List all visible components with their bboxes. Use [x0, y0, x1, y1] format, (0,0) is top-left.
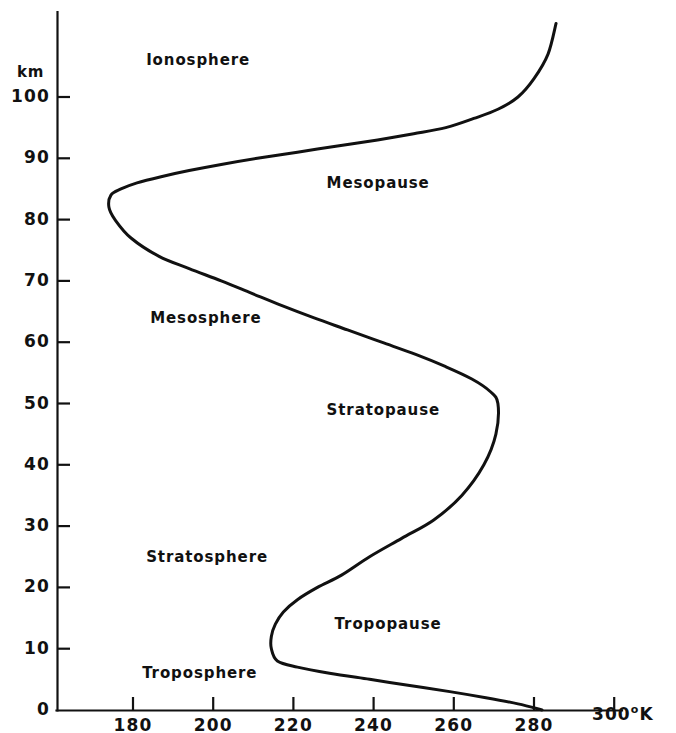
y-tick-label: 50 [0, 393, 50, 413]
y-tick-label: 10 [0, 638, 50, 658]
y-tick-label: 40 [0, 454, 50, 474]
y-tick-label: 80 [0, 209, 50, 229]
region-label-stratopause: Stratopause [327, 401, 441, 419]
x-tick-label: 200 [188, 715, 238, 733]
x-tick-label: 260 [429, 715, 479, 733]
temperature-profile-curve [109, 23, 556, 710]
region-label-troposphere: Troposphere [142, 664, 257, 682]
x-tick-label: 220 [268, 715, 318, 733]
x-tick-label: 280 [509, 715, 559, 733]
y-axis-unit-label: km [17, 63, 44, 81]
region-label-stratosphere: Stratosphere [146, 548, 268, 566]
y-tick-label: 30 [0, 515, 50, 535]
y-tick-label: 0 [0, 699, 50, 719]
x-tick-label: 180 [108, 715, 158, 733]
y-tick-label: 90 [0, 147, 50, 167]
region-label-ionosphere: Ionosphere [146, 51, 250, 69]
x-axis-unit-value: 300 [592, 704, 631, 724]
y-tick-label: 60 [0, 331, 50, 351]
region-label-tropopause: Tropopause [335, 615, 442, 633]
axis-lines [57, 12, 623, 711]
x-tick-label: 240 [349, 715, 399, 733]
y-tick-label: 70 [0, 270, 50, 290]
region-label-mesopause: Mesopause [327, 174, 430, 192]
temperature-profile-figure: km 0102030405060708090100 18020022024026… [0, 0, 676, 733]
kelvin-symbol: K [639, 704, 653, 724]
x-axis-unit-label: 300oK [592, 703, 654, 724]
y-axis-ticks [58, 97, 71, 649]
y-tick-label: 100 [0, 86, 50, 106]
y-tick-label: 20 [0, 576, 50, 596]
region-label-mesosphere: Mesosphere [150, 309, 261, 327]
